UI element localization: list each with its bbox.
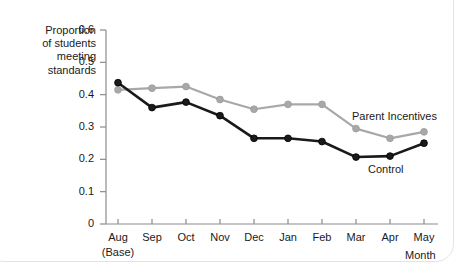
axes-group — [100, 30, 438, 224]
data-point — [149, 104, 156, 111]
y-tick-label: 0.2 — [68, 153, 94, 164]
y-tick-label: 0 — [68, 218, 94, 229]
data-point — [115, 86, 122, 93]
data-point — [149, 85, 156, 92]
y-tick-label: 0.4 — [68, 89, 94, 100]
data-point — [319, 101, 326, 108]
data-point — [183, 99, 190, 106]
y-tick-label: 0.5 — [68, 56, 94, 67]
x-axis-title: Month — [405, 249, 436, 262]
data-point — [353, 154, 360, 161]
data-point — [251, 106, 258, 113]
data-point — [217, 112, 224, 119]
series-label-parent-incentives: Parent Incentives — [352, 110, 437, 122]
x-tick-label: May — [402, 231, 446, 243]
x-tick-sublabel: (Base) — [96, 246, 140, 258]
data-point — [319, 138, 326, 145]
data-point — [387, 153, 394, 160]
y-tick-label: 0.1 — [68, 186, 94, 197]
y-axis-title-line: of students — [8, 37, 96, 50]
y-tick-label: 0.6 — [68, 24, 94, 35]
data-point — [183, 83, 190, 90]
series-label-control: Control — [368, 163, 403, 175]
y-tick-label: 0.3 — [68, 121, 94, 132]
data-point — [353, 125, 360, 132]
chart-container: Proportionof studentsmeetingstandards Mo… — [0, 0, 464, 272]
data-point — [115, 79, 122, 86]
data-point — [285, 101, 292, 108]
data-point — [421, 128, 428, 135]
data-point — [285, 135, 292, 142]
data-point — [421, 140, 428, 147]
data-point — [251, 135, 258, 142]
data-point — [387, 135, 394, 142]
data-point — [217, 96, 224, 103]
